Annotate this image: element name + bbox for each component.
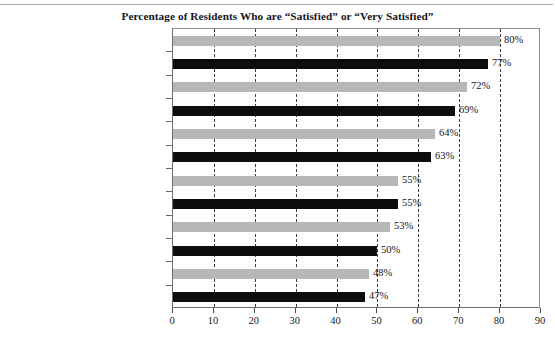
x-tick-label-0: 0 (157, 315, 187, 326)
gridline-x-60 (418, 29, 419, 307)
x-tick-label-70: 70 (443, 315, 473, 326)
bar-value-label: 63% (435, 150, 454, 161)
bar (173, 292, 365, 302)
x-tick-mark-60 (417, 308, 418, 313)
page-top-rule (0, 4, 553, 5)
x-tick-mark-0 (172, 308, 173, 313)
y-tick-mark (166, 75, 172, 76)
x-tick-label-80: 80 (484, 315, 514, 326)
plot-area (172, 28, 540, 308)
bar-value-label: 72% (471, 80, 490, 91)
bar (173, 199, 398, 209)
bar (173, 59, 488, 69)
bar-value-label: 50% (381, 244, 400, 255)
y-tick-mark (166, 168, 172, 169)
gridline-x-40 (337, 29, 338, 307)
x-tick-label-40: 40 (321, 315, 351, 326)
bar-value-label: 55% (402, 174, 421, 185)
y-tick-mark (166, 215, 172, 216)
x-tick-mark-10 (213, 308, 214, 313)
gridline-x-80 (500, 29, 501, 307)
x-tick-label-50: 50 (361, 315, 391, 326)
gridline-x-70 (459, 29, 460, 307)
bar (173, 176, 398, 186)
y-tick-mark (166, 238, 172, 239)
gridline-x-50 (377, 29, 378, 307)
bar-value-label: 80% (504, 34, 523, 45)
bar-value-label: 47% (369, 290, 388, 301)
bar-value-label: 53% (394, 220, 413, 231)
bar-value-label: 69% (459, 104, 478, 115)
x-tick-mark-70 (458, 308, 459, 313)
y-tick-mark (166, 51, 172, 52)
y-tick-mark (166, 261, 172, 262)
bar (173, 222, 390, 232)
y-tick-mark (166, 98, 172, 99)
x-tick-mark-30 (295, 308, 296, 313)
x-tick-label-20: 20 (239, 315, 269, 326)
bar (173, 36, 500, 46)
x-tick-mark-80 (499, 308, 500, 313)
bar-value-label: 64% (439, 127, 458, 138)
bar (173, 269, 369, 279)
bar-value-label: 77% (492, 57, 511, 68)
bar (173, 82, 467, 92)
chart-title: Percentage of Residents Who are “Satisfi… (0, 10, 555, 22)
y-tick-mark (166, 285, 172, 286)
bar (173, 129, 435, 139)
bar-value-label: 48% (373, 267, 392, 278)
gridline-x-20 (255, 29, 256, 307)
gridline-x-10 (214, 29, 215, 307)
x-tick-mark-50 (376, 308, 377, 313)
y-tick-mark (166, 191, 172, 192)
bar (173, 246, 377, 256)
gridline-x-30 (296, 29, 297, 307)
bar (173, 152, 431, 162)
bar-value-label: 55% (402, 197, 421, 208)
x-tick-label-60: 60 (402, 315, 432, 326)
x-tick-label-30: 30 (280, 315, 310, 326)
x-tick-label-90: 90 (525, 315, 555, 326)
bar (173, 106, 455, 116)
chart-figure: Percentage of Residents Who are “Satisfi… (0, 0, 555, 338)
y-tick-mark (166, 145, 172, 146)
x-tick-label-10: 10 (198, 315, 228, 326)
x-tick-mark-20 (254, 308, 255, 313)
y-tick-mark (166, 121, 172, 122)
x-tick-mark-90 (540, 308, 541, 313)
x-tick-mark-40 (336, 308, 337, 313)
